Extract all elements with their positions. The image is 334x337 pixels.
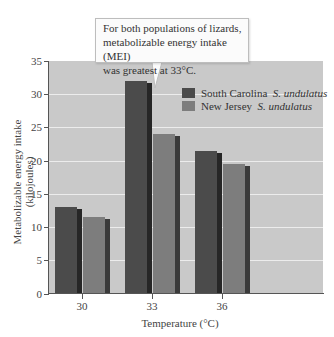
callout-line: metabolizable energy intake (MEI) (103, 35, 248, 63)
callout-line: For both populations of lizards, (103, 21, 248, 35)
x-tick (222, 294, 223, 299)
y-tick (44, 161, 49, 162)
y-tick (44, 227, 49, 228)
bar-front-face (223, 164, 245, 294)
x-tick-label: 36 (207, 300, 237, 312)
bar-south-carolina-36 (195, 151, 222, 294)
legend-label-species: S. undulatus (273, 87, 327, 99)
y-tick (44, 294, 49, 295)
bar-side-face (175, 136, 180, 293)
legend-label-region: New Jersey (201, 100, 252, 112)
bar-side-face (147, 83, 152, 294)
y-axis-title: Metabolizable energy intake (kilojoules) (11, 97, 35, 267)
y-tick (44, 260, 49, 261)
gridline (49, 194, 323, 195)
bar-side-face (217, 153, 222, 294)
bar-front-face (195, 151, 217, 294)
gridline (49, 161, 323, 162)
callout-line: was greatest at 33°C. (103, 63, 248, 77)
bar-south-carolina-30 (55, 207, 82, 293)
bar-new-jersey-33 (153, 134, 180, 293)
bar-side-face (245, 166, 250, 294)
legend-swatch-south-carolina (182, 88, 195, 98)
x-tick-label: 30 (67, 300, 97, 312)
x-tick (152, 294, 153, 299)
bar-new-jersey-36 (223, 164, 250, 294)
gridline (49, 127, 323, 128)
bar-new-jersey-30 (83, 217, 110, 293)
bar-front-face (125, 81, 147, 294)
bar-side-face (77, 209, 82, 293)
y-tick-label: 35 (18, 55, 42, 67)
bar-front-face (83, 217, 105, 293)
y-tick (44, 94, 49, 95)
y-tick (44, 127, 49, 128)
legend-label-species: S. undulatus (258, 100, 312, 112)
bar-side-face (105, 219, 110, 293)
bar-front-face (153, 134, 175, 293)
y-tick (44, 61, 49, 62)
y-tick (44, 194, 49, 195)
bar-south-carolina-33 (125, 81, 152, 294)
legend-swatch-new-jersey (182, 101, 195, 111)
bar-front-face (55, 207, 77, 293)
x-tick (82, 294, 83, 299)
x-axis-title: Temperature (°C) (100, 317, 260, 329)
annotation-callout: For both populations of lizards, metabol… (95, 18, 249, 63)
legend-label-region: South Carolina (201, 87, 267, 99)
x-tick-label: 33 (137, 300, 167, 312)
y-tick-label: 0 (18, 288, 42, 300)
